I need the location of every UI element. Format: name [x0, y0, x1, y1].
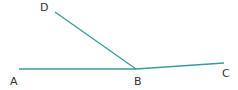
point-label-c: C — [222, 67, 230, 80]
point-label-d: D — [40, 1, 48, 14]
point-label-b: B — [134, 75, 142, 88]
segment-bd — [55, 12, 136, 69]
angle-diagram: D A B C — [0, 0, 238, 90]
segment-bc — [136, 63, 224, 69]
point-label-a: A — [10, 75, 18, 88]
